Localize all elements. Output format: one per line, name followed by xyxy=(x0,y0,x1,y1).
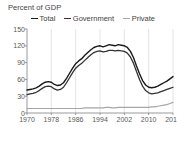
x-tick-label-1978: 1978 xyxy=(44,116,60,123)
x-tick-label-1970: 1970 xyxy=(19,116,35,123)
legend-label-government: Government xyxy=(73,14,114,23)
y-tick-label-150: 150 xyxy=(5,26,25,33)
x-tick-label-2018: 2018 xyxy=(165,116,177,123)
y-tick-label-90: 90 xyxy=(5,59,25,66)
legend-label-private: Private xyxy=(132,14,155,23)
legend-swatch-government xyxy=(64,18,71,19)
plot-area xyxy=(27,29,173,113)
legend-item-total[interactable]: Total xyxy=(31,14,55,23)
chart-figure: Percent of GDP TotalGovernmentPrivate 03… xyxy=(0,0,177,143)
x-tick-label-1994: 1994 xyxy=(92,116,108,123)
x-tick-label-1986: 1986 xyxy=(68,116,84,123)
x-tick-label-2010: 2010 xyxy=(141,116,157,123)
legend-swatch-total xyxy=(31,18,38,19)
legend-label-total: Total xyxy=(40,14,56,23)
y-tick-label-60: 60 xyxy=(5,76,25,83)
plot-svg xyxy=(27,29,173,113)
x-axis-labels: 1970197819861994200220102018 xyxy=(0,116,177,130)
y-tick-label-120: 120 xyxy=(5,42,25,49)
legend-swatch-private xyxy=(123,18,130,19)
y-tick-label-30: 30 xyxy=(5,93,25,100)
x-tick-label-2002: 2002 xyxy=(117,116,133,123)
legend-item-government[interactable]: Government xyxy=(64,14,114,23)
legend-item-private[interactable]: Private xyxy=(123,14,155,23)
chart-legend: TotalGovernmentPrivate xyxy=(31,13,177,24)
